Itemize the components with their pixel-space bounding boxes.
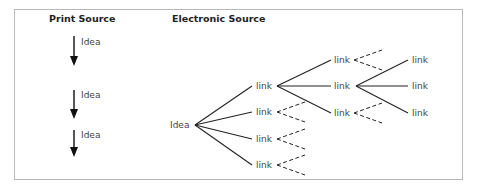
print-idea-2: Idea <box>81 90 100 100</box>
print-arrows <box>70 36 78 157</box>
level3-link-2: link <box>412 81 428 91</box>
electronic-root-idea: Idea <box>170 120 189 130</box>
level1-link-3: link <box>256 134 272 144</box>
level1-link-1: link <box>256 81 272 91</box>
level2-link-3: link <box>334 108 350 118</box>
level1-link-4: link <box>256 160 272 170</box>
print-idea-3: Idea <box>81 130 100 140</box>
level1-link-2: link <box>256 107 272 117</box>
level3-link-3: link <box>412 108 428 118</box>
diagram-lines <box>0 0 479 189</box>
print-idea-1: Idea <box>81 37 100 47</box>
level3-link-1: link <box>412 55 428 65</box>
level2-link-2: link <box>334 81 350 91</box>
level2-link-1: link <box>334 55 350 65</box>
